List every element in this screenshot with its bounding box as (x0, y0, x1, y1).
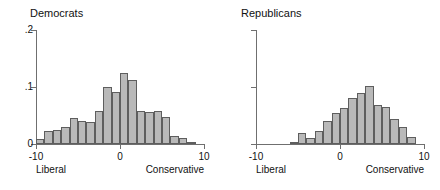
histogram-bar (145, 112, 153, 144)
x-end-label-right-republicans: Conservative (366, 164, 424, 176)
histogram-bar (357, 93, 365, 144)
histogram-bar (332, 113, 340, 144)
y-axis-tick-label: 0 (27, 137, 33, 150)
histogram-bar (298, 133, 306, 144)
x-axis-tick (120, 144, 121, 149)
y-axis-tick-label: .1 (25, 80, 33, 93)
histogram-bar (137, 111, 145, 144)
x-axis-tick (340, 144, 341, 149)
histogram-bar (70, 118, 78, 144)
histogram-bars-democrats (36, 30, 204, 144)
histogram-bar (340, 108, 348, 144)
histogram-bar (61, 127, 69, 144)
histogram-bar (315, 131, 323, 144)
histogram-bar (53, 130, 61, 144)
panel-democrats: Democrats 0.1.2 -10010 Liberal Conservat… (0, 0, 220, 190)
x-axis-tick-label: 0 (117, 151, 123, 163)
histogram-bar (128, 80, 136, 144)
histogram-bar (382, 107, 390, 144)
histogram-bar (365, 86, 373, 144)
histogram-bar (374, 105, 382, 144)
histogram-bar (103, 87, 111, 144)
histogram-bar (78, 121, 86, 144)
histogram-bar (187, 142, 195, 144)
x-axis-tick (424, 144, 425, 149)
histogram-bar (390, 119, 398, 144)
x-axis-tick-label: 10 (418, 151, 429, 163)
plot-area-democrats (36, 30, 204, 144)
x-end-label-left-republicans: Liberal (256, 164, 286, 176)
histogram-bar (348, 98, 356, 144)
x-axis-tick (256, 144, 257, 149)
plot-area-republicans (256, 30, 424, 144)
histogram-bar (44, 131, 52, 144)
panel-title-democrats: Democrats (30, 7, 83, 20)
histogram-bar (407, 137, 415, 144)
x-axis-tick-label: 0 (337, 151, 343, 163)
x-end-label-left-democrats: Liberal (36, 164, 66, 176)
y-axis-tick (251, 87, 256, 88)
x-end-label-right-democrats: Conservative (146, 164, 204, 176)
histogram-bar (306, 138, 314, 144)
x-axis-tick (204, 144, 205, 149)
histogram-bar (162, 117, 170, 144)
x-axis-tick (36, 144, 37, 149)
y-axis-tick (251, 30, 256, 31)
x-axis-tick-label: 10 (198, 151, 209, 163)
y-axis-tick-label: .2 (25, 23, 33, 36)
histogram-bar (179, 138, 187, 144)
histogram-bars-republicans (256, 30, 424, 144)
chart-figure: Democrats 0.1.2 -10010 Liberal Conservat… (0, 0, 440, 190)
histogram-bar (36, 139, 44, 144)
panel-title-republicans: Republicans (241, 7, 302, 20)
panel-republicans: Republicans -10010 Liberal Conservative (220, 0, 440, 190)
histogram-bar (323, 121, 331, 144)
histogram-bar (95, 111, 103, 144)
histogram-bar (290, 142, 298, 144)
x-axis-tick-label: -10 (249, 151, 263, 163)
histogram-bar (120, 73, 128, 144)
histogram-bar (112, 92, 120, 144)
histogram-bar (399, 127, 407, 144)
histogram-bar (154, 111, 162, 144)
histogram-bar (86, 122, 94, 144)
histogram-bar (170, 136, 178, 144)
x-axis-tick-label: -10 (29, 151, 43, 163)
